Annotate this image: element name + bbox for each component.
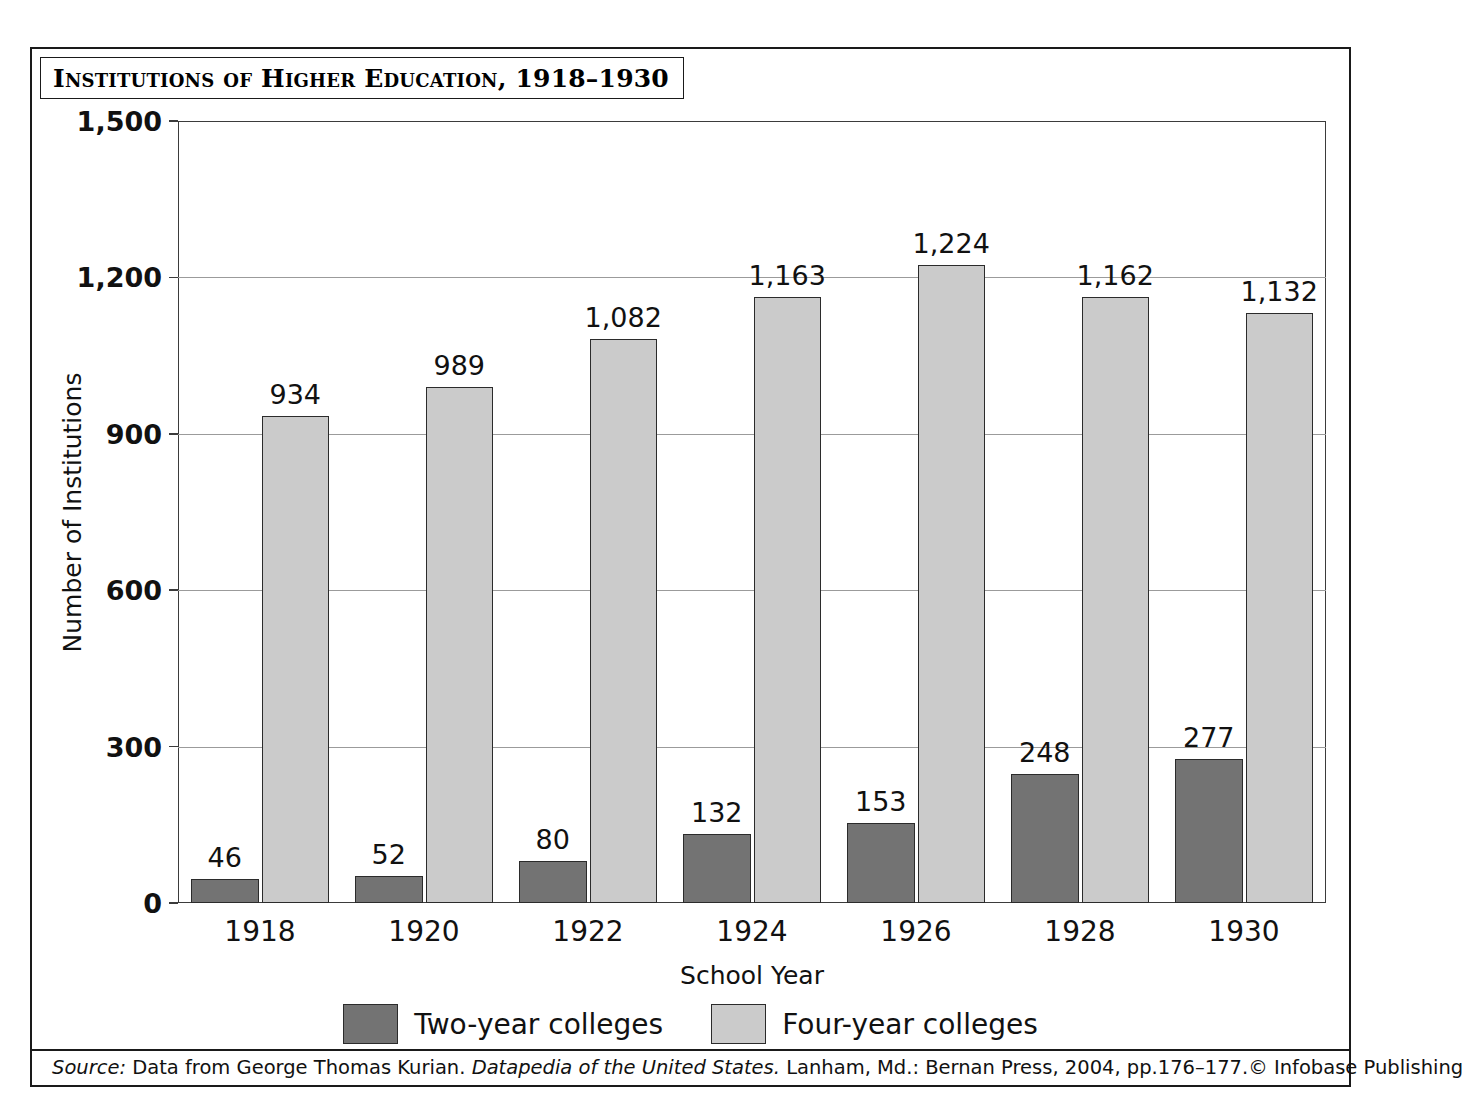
y-axis-tick-label: 1,200 <box>77 262 162 293</box>
bar-value-label: 1,132 <box>1241 276 1318 307</box>
bar-two-year-1930: 277 <box>1175 759 1243 903</box>
bar-value-label: 277 <box>1183 722 1235 753</box>
x-axis-tick-label: 1920 <box>388 915 459 948</box>
y-axis-tick-label: 600 <box>106 575 162 606</box>
x-axis-tick-label: 1926 <box>880 915 951 948</box>
x-axis-tick-label: 1922 <box>552 915 623 948</box>
bar-value-label: 132 <box>691 797 743 828</box>
copyright-label: © Infobase Publishing <box>1248 1056 1463 1079</box>
bar-value-label: 46 <box>208 842 242 873</box>
bar-value-label: 80 <box>536 824 570 855</box>
bar-value-label: 1,082 <box>585 302 662 333</box>
bar-value-label: 934 <box>269 379 321 410</box>
bar-two-year-1924: 132 <box>683 834 751 903</box>
y-axis-tick <box>169 589 178 591</box>
y-axis-tick-label: 300 <box>106 731 162 762</box>
chart-legend: Two-year collegesFour-year colleges <box>32 1004 1349 1044</box>
bar-two-year-1918: 46 <box>191 879 259 903</box>
bars-layer: 4693452989801,0821321,1631531,2242481,16… <box>178 121 1326 903</box>
bar-value-label: 1,163 <box>749 260 826 291</box>
legend-item: Two-year colleges <box>343 1004 663 1044</box>
bar-value-label: 1,224 <box>913 228 990 259</box>
legend-swatch <box>711 1004 766 1044</box>
source-title: Datapedia of the United States. <box>472 1056 780 1079</box>
bar-four-year-1924: 1,163 <box>754 297 822 903</box>
y-axis-tick <box>169 120 178 122</box>
y-axis-tick <box>169 433 178 435</box>
x-axis-tick-label: 1928 <box>1044 915 1115 948</box>
bar-two-year-1922: 80 <box>519 861 587 903</box>
bar-value-label: 248 <box>1019 737 1071 768</box>
y-axis-tick-label: 1,500 <box>77 106 162 137</box>
legend-item: Four-year colleges <box>711 1004 1038 1044</box>
bar-value-label: 52 <box>372 839 406 870</box>
source-attribution: Data from George Thomas Kurian. <box>126 1056 472 1079</box>
y-axis-tick-label: 900 <box>106 418 162 449</box>
source-publication: Lanham, Md.: Bernan Press, 2004, pp.176–… <box>780 1056 1248 1079</box>
source-row: Source: Data from George Thomas Kurian. … <box>32 1049 1349 1085</box>
legend-swatch <box>343 1004 398 1044</box>
bar-two-year-1928: 248 <box>1011 774 1079 903</box>
bar-two-year-1920: 52 <box>355 876 423 903</box>
page-title: Institutions of Higher Education, 1918–1… <box>53 64 669 93</box>
legend-label: Four-year colleges <box>782 1008 1038 1041</box>
x-axis-tick-label: 1930 <box>1208 915 1279 948</box>
y-axis-tick <box>169 902 178 904</box>
x-axis-title: School Year <box>178 961 1326 990</box>
bar-four-year-1922: 1,082 <box>590 339 658 903</box>
chart-figure: Institutions of Higher Education, 1918–1… <box>30 47 1351 1087</box>
bar-two-year-1926: 153 <box>847 823 915 903</box>
bar-four-year-1920: 989 <box>426 387 494 903</box>
source-prefix: Source: <box>52 1056 126 1079</box>
bar-four-year-1930: 1,132 <box>1246 313 1314 903</box>
bar-value-label: 989 <box>433 350 485 381</box>
y-axis-title-label: Number of Institutions <box>59 372 88 652</box>
y-axis-tick <box>169 746 178 748</box>
source-note: Source: Data from George Thomas Kurian. … <box>52 1056 1248 1079</box>
bar-four-year-1926: 1,224 <box>918 265 986 903</box>
x-axis-tick-label: 1918 <box>224 915 295 948</box>
plot-area: 03006009001,2001,500 4693452989801,08213… <box>178 121 1326 903</box>
x-axis-tick-label: 1924 <box>716 915 787 948</box>
bar-value-label: 1,162 <box>1077 260 1154 291</box>
bar-four-year-1918: 934 <box>262 416 330 903</box>
y-axis-tick-label: 0 <box>143 888 162 919</box>
chart-title-box: Institutions of Higher Education, 1918–1… <box>40 57 684 99</box>
bar-value-label: 153 <box>855 786 907 817</box>
legend-label: Two-year colleges <box>414 1008 663 1041</box>
y-axis-tick <box>169 277 178 279</box>
bar-four-year-1928: 1,162 <box>1082 297 1150 903</box>
y-axis-title: Number of Institutions <box>56 121 90 903</box>
